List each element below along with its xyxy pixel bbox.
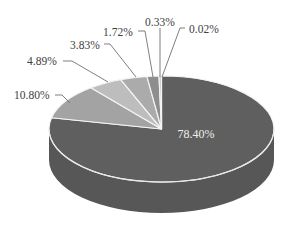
leader-line xyxy=(162,28,185,77)
leader-line xyxy=(104,44,136,77)
leader-line xyxy=(63,61,108,82)
pie-chart: 78.40%10.80%4.89%3.83%1.72%0.33%0.02% xyxy=(0,0,291,231)
slice-label: 78.40% xyxy=(178,127,215,141)
slice-label: 0.02% xyxy=(189,23,219,35)
slice-label: 0.33% xyxy=(145,16,175,28)
slice-label: 10.80% xyxy=(14,89,50,101)
leader-line xyxy=(138,31,153,77)
slice-label: 1.72% xyxy=(103,26,133,38)
pie-slices xyxy=(49,76,274,182)
slice-label: 4.89% xyxy=(27,55,57,67)
slice-label: 3.83% xyxy=(70,39,100,51)
